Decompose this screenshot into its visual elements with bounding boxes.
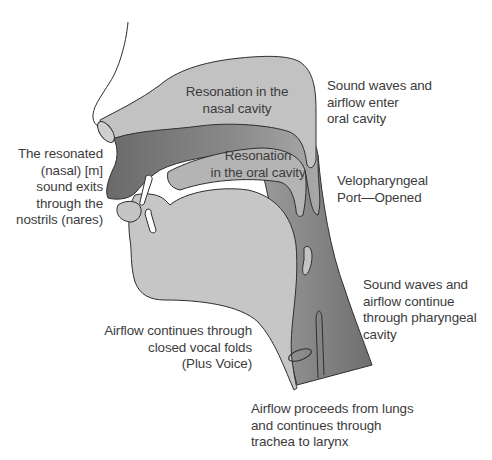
label-velopharyngeal-port: Velopharyngeal Port—Opened — [337, 173, 487, 206]
label-vocal-folds: Airflow continues through closed vocal f… — [100, 323, 252, 373]
label-lungs-trachea: Airflow proceeds from lungs and continue… — [251, 401, 451, 451]
label-nasal-cavity: Resonation in the nasal cavity — [172, 84, 302, 117]
label-oral-cavity: Resonation in the oral cavity — [198, 148, 318, 181]
vocal-tract-diagram — [0, 0, 492, 460]
label-enter-oral-cavity: Sound waves and airflow enter oral cavit… — [327, 78, 487, 128]
label-nostrils-exit: The resonated (nasal) [m] sound exits th… — [0, 146, 103, 229]
lower-lip — [117, 201, 141, 222]
label-pharyngeal-cavity: Sound waves and airflow continue through… — [363, 277, 492, 343]
